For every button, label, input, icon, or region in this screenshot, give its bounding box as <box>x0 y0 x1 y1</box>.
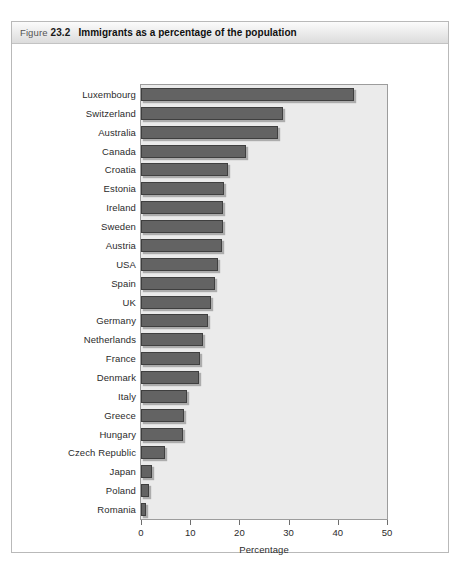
bar-germany <box>141 314 208 327</box>
bar-estonia <box>141 182 224 195</box>
category-label: France <box>16 352 136 365</box>
bar-ireland <box>141 201 223 214</box>
bar-czech-republic <box>141 446 165 459</box>
x-tick-mark <box>141 520 142 525</box>
bar-usa <box>141 258 218 271</box>
category-label: Austria <box>16 239 136 252</box>
bar-poland <box>141 484 149 497</box>
bar-luxembourg <box>141 88 354 101</box>
category-label: Croatia <box>16 163 136 176</box>
x-tick-label: 0 <box>138 527 143 538</box>
x-axis-title: Percentage <box>140 544 388 555</box>
bar-japan <box>141 465 152 478</box>
category-label: Australia <box>16 126 136 139</box>
category-label: Denmark <box>16 371 136 384</box>
bar-sweden <box>141 220 223 233</box>
category-label: Canada <box>16 145 136 158</box>
bar-uk <box>141 296 211 309</box>
category-label: Hungary <box>16 428 136 441</box>
x-tick-label: 30 <box>283 527 294 538</box>
figure-title: Immigrants as a percentage of the popula… <box>78 27 296 38</box>
bar-greece <box>141 409 184 422</box>
figure-number: 23.2 <box>51 27 71 38</box>
plot-area <box>140 84 388 520</box>
figure-label: Figure <box>20 27 48 38</box>
bar-spain <box>141 277 215 290</box>
x-tick-label: 40 <box>333 527 344 538</box>
bar-australia <box>141 126 278 139</box>
bar-canada <box>141 145 246 158</box>
category-label: Switzerland <box>16 107 136 120</box>
category-label: Romania <box>16 503 136 516</box>
bar-hungary <box>141 428 183 441</box>
category-label: Sweden <box>16 220 136 233</box>
category-label: Italy <box>16 390 136 403</box>
category-label: Spain <box>16 277 136 290</box>
bar-romania <box>141 503 146 516</box>
x-tick-mark <box>338 520 339 525</box>
x-tick-mark <box>190 520 191 525</box>
bar-switzerland <box>141 107 283 120</box>
category-label: Czech Republic <box>16 446 136 459</box>
figure-container: Figure 23.2 Immigrants as a percentage o… <box>11 21 449 553</box>
category-label: Greece <box>16 409 136 422</box>
bar-chart: LuxembourgSwitzerlandAustraliaCanadaCroa… <box>12 44 448 553</box>
category-label: Luxembourg <box>16 88 136 101</box>
category-label: UK <box>16 296 136 309</box>
figure-header: Figure 23.2 Immigrants as a percentage o… <box>12 22 448 44</box>
bar-denmark <box>141 371 199 384</box>
bar-italy <box>141 390 187 403</box>
category-label: Poland <box>16 484 136 497</box>
category-label: Netherlands <box>16 333 136 346</box>
category-label: USA <box>16 258 136 271</box>
x-tick-mark <box>387 520 388 525</box>
x-tick-mark <box>239 520 240 525</box>
bar-france <box>141 352 200 365</box>
x-tick-mark <box>289 520 290 525</box>
category-label: Ireland <box>16 201 136 214</box>
x-tick-label: 20 <box>234 527 245 538</box>
bar-netherlands <box>141 333 203 346</box>
category-label: Japan <box>16 465 136 478</box>
bar-croatia <box>141 163 228 176</box>
category-label: Estonia <box>16 182 136 195</box>
bar-austria <box>141 239 222 252</box>
x-tick-label: 10 <box>185 527 196 538</box>
x-tick-label: 50 <box>382 527 393 538</box>
category-label: Germany <box>16 314 136 327</box>
